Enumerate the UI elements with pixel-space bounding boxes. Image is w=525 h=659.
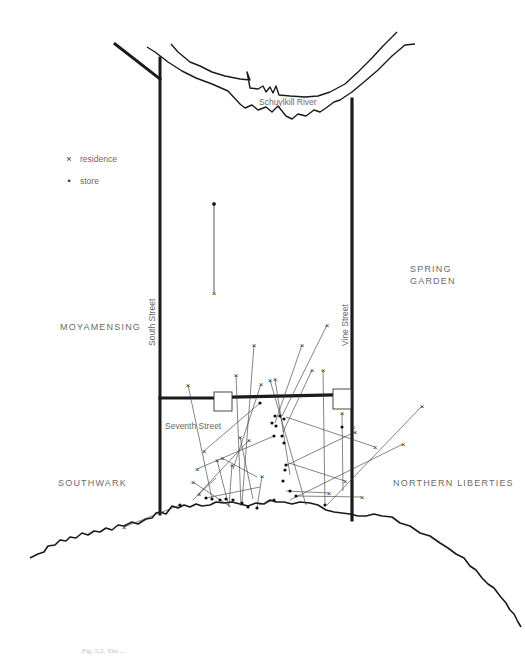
svg-text:×: × xyxy=(373,443,378,452)
svg-text:×: × xyxy=(122,523,127,532)
isolated-link: × xyxy=(212,202,217,298)
city-boundary xyxy=(115,44,352,520)
legend-residence-label: residence xyxy=(80,154,117,164)
district-spring-garden-2: GARDEN xyxy=(410,276,456,286)
svg-text:×: × xyxy=(268,376,273,385)
legend-residence: × residence xyxy=(65,154,117,164)
svg-text:×: × xyxy=(238,433,243,442)
street-vine: Vine Street xyxy=(340,304,350,346)
district-northern-liberties: NORTHERN LIBERTIES xyxy=(393,478,514,488)
svg-text:×: × xyxy=(186,381,191,390)
svg-text:×: × xyxy=(220,454,225,463)
svg-text:×: × xyxy=(327,489,332,498)
svg-text:×: × xyxy=(212,289,217,298)
svg-text:×: × xyxy=(191,478,196,487)
store-dot-icon: • xyxy=(65,176,73,186)
svg-text:×: × xyxy=(325,321,330,330)
svg-text:×: × xyxy=(202,447,207,456)
svg-text:×: × xyxy=(247,436,252,445)
svg-text:×: × xyxy=(351,423,356,432)
svg-text:×: × xyxy=(195,465,200,474)
svg-text:×: × xyxy=(343,477,348,486)
residence-cross-icon: × xyxy=(65,154,73,164)
district-moyamensing: MOYAMENSING xyxy=(60,322,141,332)
svg-text:×: × xyxy=(197,490,202,499)
svg-text:×: × xyxy=(420,402,425,411)
svg-text:×: × xyxy=(340,409,345,418)
svg-text:×: × xyxy=(401,440,406,449)
square-east xyxy=(333,389,351,409)
svg-text:×: × xyxy=(360,493,365,502)
river-label: Schuylkill River xyxy=(259,97,317,107)
svg-text:×: × xyxy=(234,371,239,380)
svg-text:×: × xyxy=(252,341,257,350)
square-west xyxy=(214,392,232,411)
svg-text:×: × xyxy=(260,472,265,481)
legend-store-label: store xyxy=(80,176,99,186)
svg-text:×: × xyxy=(273,375,278,384)
svg-text:×: × xyxy=(259,380,264,389)
delaware-river-bank xyxy=(30,500,521,627)
svg-text:×: × xyxy=(321,366,326,375)
legend-store: • store xyxy=(65,176,99,186)
svg-text:×: × xyxy=(300,341,305,350)
district-southwark: SOUTHWARK xyxy=(58,478,127,488)
street-south: South Street xyxy=(147,299,157,346)
figure-caption: Fig. 5.2. The ... xyxy=(82,647,125,655)
svg-text:×: × xyxy=(310,366,315,375)
district-spring-garden-1: SPRING xyxy=(410,264,452,274)
street-seventh: Seventh Street xyxy=(165,421,221,431)
svg-text:×: × xyxy=(230,461,235,470)
